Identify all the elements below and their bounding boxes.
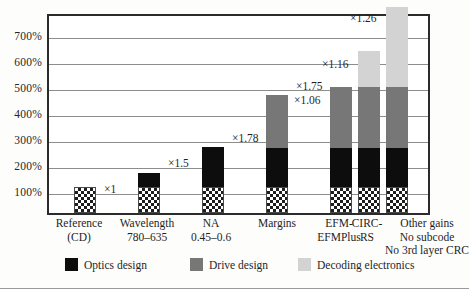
bar-wavelength[interactable] (138, 173, 160, 213)
legend-swatch-optics-design (65, 258, 78, 271)
bar-reference-cd[interactable] (74, 187, 96, 213)
legend-item-decoding-electronics[interactable]: Decoding electronics (298, 258, 414, 271)
x-category-line: No subcode (337, 231, 469, 245)
bar-circ-rs[interactable] (358, 51, 380, 213)
x-category-other-gains: Other gains No subcode No 3rd layer CRC (337, 217, 469, 258)
bar-segment-optics (202, 147, 224, 187)
bar-value-label-circ-rs: ×1.16 (322, 58, 349, 70)
x-category-na: NA 0.45–0.6 (175, 217, 247, 244)
y-tick-500: 500% (0, 82, 42, 94)
bar-segment-decoding (358, 51, 380, 87)
bar-segment-drive (358, 87, 380, 148)
bar-na[interactable] (202, 147, 224, 213)
legend-label-optics-design: Optics design (84, 259, 147, 271)
figure-container: 700% 600% 500% 400% 300% 200% 100% ×1 ×1… (0, 0, 469, 290)
legend-swatch-decoding-electronics (298, 258, 311, 271)
bar-value-label-other-gains: ×1.26 (350, 12, 377, 24)
x-category-line: NA (175, 217, 247, 231)
bar-value-label-margins: ×1.75 (296, 80, 323, 92)
y-tick-300: 300% (0, 134, 42, 146)
y-tick-200: 200% (0, 160, 42, 172)
figure-bottom-rule (0, 288, 469, 289)
x-category-line: No 3rd layer CRC (337, 244, 469, 258)
bar-segment-decoding (386, 7, 408, 87)
bar-margins[interactable] (266, 95, 288, 213)
y-tick-100: 100% (0, 186, 42, 198)
bar-segment-base (138, 187, 160, 213)
bar-segment-base (266, 187, 288, 213)
bar-value-label-na: ×1.78 (232, 132, 259, 144)
legend-label-drive-design: Drive design (209, 259, 268, 271)
chart-legend: Optics design Drive design Decoding elec… (47, 258, 430, 276)
bar-segment-optics (330, 148, 352, 187)
bar-efm-efmplus[interactable] (330, 87, 352, 213)
legend-item-drive-design[interactable]: Drive design (190, 258, 268, 271)
legend-swatch-drive-design (190, 258, 203, 271)
bar-segment-base (386, 187, 408, 213)
bar-segment-optics (358, 148, 380, 187)
x-category-line: 0.45–0.6 (175, 231, 247, 245)
bar-segment-base (358, 187, 380, 213)
bar-other-gains[interactable] (386, 7, 408, 213)
bar-segment-optics (138, 173, 160, 187)
legend-item-optics-design[interactable]: Optics design (65, 258, 147, 271)
bar-value-label-efm-efmplus: ×1.06 (294, 94, 321, 106)
bar-segment-base (330, 187, 352, 213)
legend-label-decoding-electronics: Decoding electronics (317, 259, 414, 271)
x-axis-category-labels: Reference (CD) Wavelength 780–635 NA 0.4… (47, 217, 430, 263)
gridline-700 (49, 38, 428, 39)
x-category-line: Other gains (337, 217, 469, 231)
y-tick-700: 700% (0, 30, 42, 42)
bar-segment-drive (386, 87, 408, 148)
bar-segment-drive (330, 87, 352, 148)
y-tick-600: 600% (0, 56, 42, 68)
bar-value-label-reference-cd: ×1 (104, 183, 116, 195)
y-tick-400: 400% (0, 108, 42, 120)
bar-value-label-wavelength: ×1.5 (168, 157, 189, 169)
bar-segment-base (202, 187, 224, 213)
bar-segment-base (74, 187, 96, 213)
plot-area: ×1 ×1.5 ×1.78 ×1.75 ×1.06 (47, 14, 430, 215)
bar-segment-optics (266, 148, 288, 187)
y-axis-tick-labels: 700% 600% 500% 400% 300% 200% 100% (0, 0, 47, 290)
bar-segment-optics (386, 148, 408, 187)
bar-segment-drive (266, 95, 288, 148)
